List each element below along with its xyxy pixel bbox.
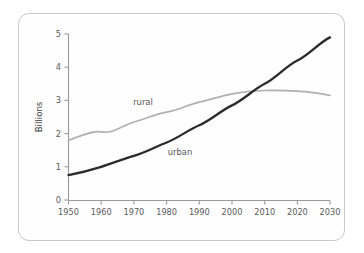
x-tick-label: 2010: [254, 207, 275, 217]
series-line-urban: [69, 37, 331, 175]
y-tick-labels: 5 4 3 2 1 0: [56, 29, 61, 205]
y-tick-label: 0: [56, 195, 61, 205]
y-tick-label: 4: [56, 62, 61, 72]
series-label-rural: rural: [133, 97, 153, 107]
y-axis-title: Billions: [34, 101, 44, 132]
y-tick-label: 2: [56, 129, 61, 139]
y-tick-label: 5: [56, 29, 61, 39]
x-tick-label: 2000: [222, 207, 243, 217]
x-tick-marks: [69, 201, 331, 205]
x-tick-label: 2030: [320, 207, 341, 217]
x-tick-label: 1980: [156, 207, 177, 217]
chart-axes: [65, 34, 331, 205]
x-tick-label: 1990: [189, 207, 210, 217]
y-tick-label: 3: [56, 95, 61, 105]
series-line-rural: [69, 90, 331, 140]
x-tick-labels: 1950 1960 1970 1980 1990 2000 2010 2020 …: [58, 207, 340, 217]
x-tick-label: 1960: [91, 207, 112, 217]
x-tick-label: 1970: [123, 207, 144, 217]
x-tick-label: 2020: [287, 207, 308, 217]
series-label-urban: urban: [168, 147, 193, 157]
population-line-chart: 5 4 3 2 1 0 1950 1960 1970 1980 1990 200…: [0, 0, 364, 253]
x-tick-label: 1950: [58, 207, 79, 217]
y-tick-label: 1: [56, 162, 61, 172]
